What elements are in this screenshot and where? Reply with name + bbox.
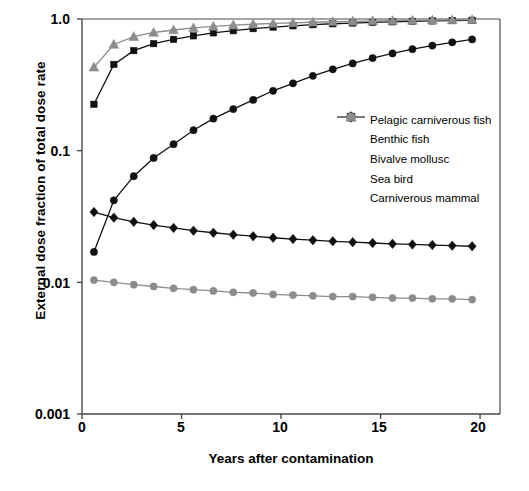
legend-item-3: Sea bird [336,169,491,189]
series-2 [89,15,477,71]
plot-area [0,0,529,491]
legend-label: Sea bird [366,173,413,185]
legend-marker-triangle-icon [336,152,366,166]
legend-label: Carniverous mammal [366,192,479,204]
chart-legend: Pelagic carniverous fishBenthic fishBiva… [336,110,491,208]
series-3 [90,207,476,251]
series-4 [90,276,475,303]
legend-label: Bivalve mollusc [366,153,449,165]
legend-marker-diamond-icon [336,172,366,186]
legend-item-4: Carniverous mammal [336,188,491,208]
legend-item-2: Bivalve mollusc [336,149,491,169]
legend-label: Pelagic carniverous fish [366,114,491,126]
chart-figure: External dose fraction of total dose rat… [0,0,529,491]
legend-marker-circle-icon [336,191,366,205]
legend-item-1: Benthic fish [336,130,491,150]
legend-marker-square-icon [336,132,366,146]
series-1 [91,17,476,107]
legend-label: Benthic fish [366,133,429,145]
